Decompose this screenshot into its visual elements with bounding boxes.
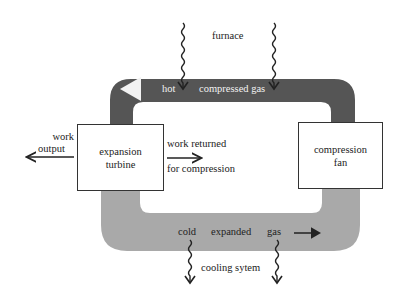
turbine-label-line2: turbine [106,158,136,171]
compression-fan-box: compression fan [298,122,383,189]
cold-label: cold [178,226,196,238]
expansion-turbine-box: expansion turbine [77,124,164,191]
work-returned-label-line2: for compression [167,163,235,175]
furnace-heat-arrow-right [273,23,276,88]
work-output-label-line2: output [38,143,65,155]
gas-label: gas [267,226,281,238]
expanded-label: expanded [211,226,251,238]
furnace-label: furnace [212,30,243,42]
cooling-system-label: cooling sytem [201,262,260,274]
cold-pipe [101,185,360,251]
hot-label: hot [162,83,175,95]
fan-label-line2: fan [334,156,347,169]
furnace-heat-arrow-left [182,23,185,88]
fan-label-line1: compression [314,143,367,156]
work-output-label-line1: work [44,131,74,143]
compressed-gas-label: compressed gas [199,83,265,95]
work-returned-label-line1: work returned [167,138,226,150]
turbine-label-line1: expansion [99,145,142,158]
